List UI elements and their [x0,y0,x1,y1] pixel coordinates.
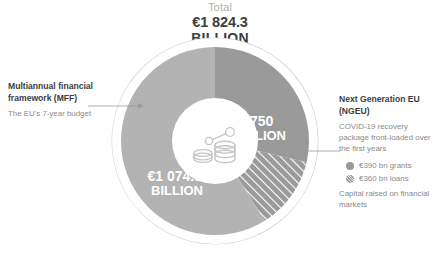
infographic-canvas: Total €1 824.3 BILLION [0,0,438,257]
callout-mff-body: The EU's 7-year budget [8,109,100,120]
circle-solid-icon [346,162,354,170]
arrow-right-icon [138,103,144,109]
callout-ngeu: Next Generation EU (NGEU) COVID-19 recov… [339,94,435,211]
callout-mff-title: Multiannual financial framework (MFF) [8,81,100,104]
legend-label-loans: €360 bn loans [359,174,409,183]
callout-ngeu-body: COVID-19 recovery package front-loaded o… [339,122,435,155]
ngeu-unit: BILLION [234,128,286,143]
legend-item-grants: €390 bn grants [339,161,435,170]
donut-svg: €750 BILLION €1 074.3 BILLION [105,33,333,257]
connector-right [296,146,342,156]
legend-label-grants: €390 bn grants [359,161,412,170]
ngeu-legend: €390 bn grants €360 bn loans [339,161,435,184]
mff-value: €1 074.3 [148,168,203,184]
mff-unit: BILLION [151,183,203,198]
arrow-left-icon [298,148,304,154]
donut-chart: €750 BILLION €1 074.3 BILLION [105,33,333,257]
callout-ngeu-title: Next Generation EU (NGEU) [339,94,435,117]
legend-item-loans: €360 bn loans [339,174,435,183]
callout-mff: Multiannual financial framework (MFF) Th… [8,81,100,120]
callout-ngeu-footnote: Capital raised on financial markets [339,189,435,211]
total-value: €1 824.3 [160,15,280,31]
mff-value-label: €1 074.3 BILLION [148,167,207,198]
circle-hatched-icon [346,175,354,183]
total-label: Total [160,2,280,14]
ngeu-value: €750 [242,113,273,129]
